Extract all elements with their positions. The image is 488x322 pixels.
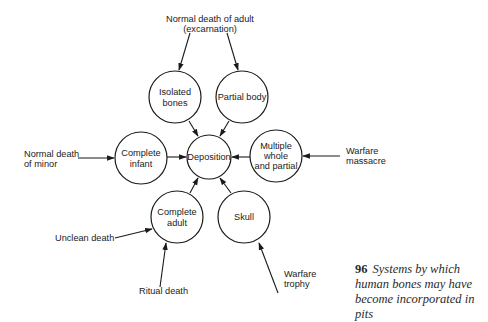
node-label: Skull (234, 212, 254, 222)
source-label: Warfare (346, 146, 378, 156)
arrow-adult-to-partial (227, 33, 238, 70)
node-label: Complete (157, 207, 196, 217)
arrow-isolated-to-deposition (189, 121, 198, 136)
arrow-adult-to-deposition (190, 178, 198, 193)
node-label: Complete (121, 148, 160, 158)
source-label: massacre (346, 156, 386, 166)
source-label: Normal death (24, 149, 79, 159)
source-unclean-death: Unclean death (55, 233, 114, 243)
node-label: and partial (255, 161, 298, 171)
source-label: of minor (24, 159, 57, 169)
arrow-partial-to-deposition (220, 121, 229, 136)
node-complete-adult: Complete adult (151, 191, 203, 243)
node-isolated-bones: Isolated bones (149, 71, 201, 123)
source-label: Ritual death (139, 286, 188, 296)
node-skull: Skull (218, 191, 270, 243)
node-label: adult (167, 218, 187, 228)
source-label: Unclean death (55, 233, 114, 243)
figure-number: 96 (355, 262, 368, 276)
node-label: Deposition (187, 152, 230, 162)
figure-caption: 96Systems by which human bones may have … (355, 262, 487, 322)
arrow-adult-to-isolated (179, 33, 190, 70)
node-multiple-whole-partial: Multiple whole and partial (250, 130, 302, 182)
node-label: whole (263, 151, 288, 161)
source-label: (excarnation) (183, 24, 237, 34)
caption-text: Systems by which human bones may have be… (355, 262, 474, 321)
source-normal-death-adult: Normal death of adult (excarnation) (166, 14, 254, 34)
node-partial-body: Partial body (216, 71, 268, 123)
node-label: Isolated (159, 87, 191, 97)
arrow-unclean-to-adult (115, 229, 152, 238)
source-normal-death-minor: Normal death of minor (24, 149, 79, 169)
source-warfare-trophy: Warfare trophy (284, 269, 316, 289)
node-label: Partial body (218, 92, 267, 102)
source-warfare-massacre: Warfare massacre (346, 146, 386, 166)
source-label: Normal death of adult (166, 14, 254, 24)
node-deposition: Deposition (187, 135, 231, 179)
arrow-ritual-to-adult (160, 243, 166, 287)
node-label: infant (130, 159, 153, 169)
arrow-trophy-to-skull (259, 243, 278, 293)
node-label: Multiple (260, 141, 292, 151)
node-complete-infant: Complete infant (115, 132, 167, 184)
source-ritual-death: Ritual death (139, 286, 188, 296)
source-label: trophy (284, 279, 310, 289)
node-label: bones (162, 98, 187, 108)
source-label: Warfare (284, 269, 316, 279)
arrow-skull-to-deposition (220, 178, 231, 193)
